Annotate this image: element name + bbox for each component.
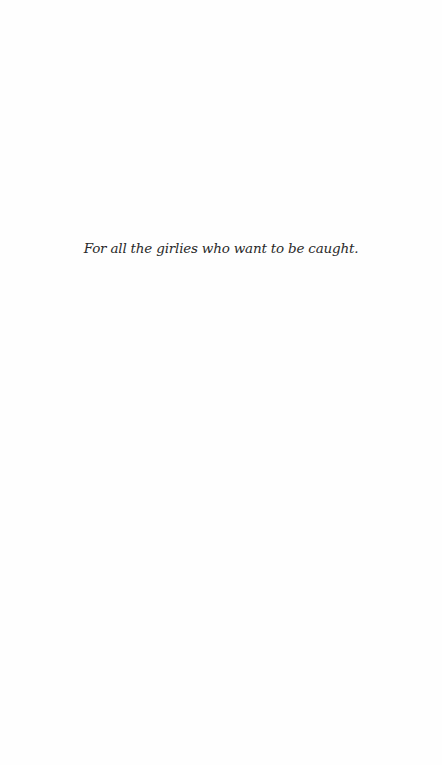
dedication-text: For all the girlies who want to be caugh… [0, 238, 442, 258]
book-page: For all the girlies who want to be caugh… [0, 0, 442, 765]
